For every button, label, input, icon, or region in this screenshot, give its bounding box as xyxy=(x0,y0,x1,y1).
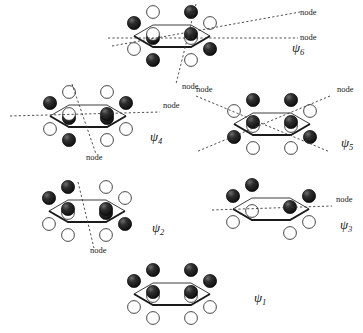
orbital-lobe xyxy=(61,202,74,215)
node-label-psi5-0: node xyxy=(337,84,354,94)
orbital-lobe xyxy=(128,301,141,314)
orbital-lobe xyxy=(246,93,259,106)
orbital-lobe xyxy=(184,27,197,40)
orbital-lobe xyxy=(100,181,113,194)
orbital-lobe xyxy=(203,42,216,55)
orbital-lobe xyxy=(146,53,159,66)
node-label-psi2-0: node xyxy=(90,245,107,255)
orbital-lobe xyxy=(118,217,131,230)
orbital-label-psi1: ψ1 xyxy=(254,290,266,307)
orbital-lobe xyxy=(204,301,217,314)
orbital-label-psi6: ψ6 xyxy=(292,40,305,57)
orbital-psi4 xyxy=(43,86,132,147)
orbital-lobe xyxy=(44,123,57,136)
node-line-psi6-0 xyxy=(112,12,300,46)
orbital-lobe xyxy=(119,96,132,109)
node-line-psi3-0 xyxy=(212,206,332,210)
orbital-lobe xyxy=(42,191,55,204)
orbital-label-psi2: ψ2 xyxy=(152,220,165,237)
orbital-lobe xyxy=(146,285,159,298)
orbital-lobe xyxy=(303,216,316,229)
orbital-lobe xyxy=(283,200,296,213)
orbital-psi5 xyxy=(227,93,316,154)
node-label-psi3-0: node xyxy=(336,194,353,204)
orbital-lobe xyxy=(127,274,140,287)
orbital-lobe xyxy=(203,274,216,287)
node-line-psi4-0 xyxy=(10,112,160,116)
orbital-lobe xyxy=(227,130,240,143)
orbital-lobe xyxy=(246,205,259,218)
node-label-psi4-1: node xyxy=(86,152,103,162)
node-label-psi6-0: node xyxy=(300,7,317,17)
orbital-lobe xyxy=(119,192,132,205)
mo-diagram-canvas: nodenodenodeψ6nodenodeψ4nodenodeψ5nodeψ2… xyxy=(0,0,363,333)
orbital-lobe xyxy=(185,312,198,325)
orbital-lobe xyxy=(62,229,75,242)
orbital-lobe xyxy=(184,263,197,276)
node-label-psi5-1: node xyxy=(196,84,213,94)
node-label-psi4-0: node xyxy=(163,100,180,110)
orbital-label-psi4: ψ4 xyxy=(150,129,163,146)
orbital-psi1 xyxy=(127,263,216,324)
orbital-label-psi3: ψ3 xyxy=(340,217,352,234)
orbital-lobe xyxy=(303,130,316,143)
orbital-lobe xyxy=(284,115,297,128)
orbital-psi6 xyxy=(127,5,216,66)
orbital-lobe xyxy=(226,189,239,202)
benzene-mo-diagram: nodenodenodeψ6nodenodeψ4nodenodeψ5nodeψ2… xyxy=(0,0,363,333)
orbital-lobe xyxy=(228,105,241,118)
orbital-lobe xyxy=(127,16,140,29)
orbital-lobe xyxy=(185,54,198,67)
orbital-lobe xyxy=(146,263,159,276)
orbital-lobe xyxy=(101,86,114,99)
orbital-layer xyxy=(42,5,316,324)
orbital-lobe xyxy=(184,5,197,18)
orbital-lobe xyxy=(63,86,76,99)
orbital-lobe xyxy=(227,216,240,229)
orbital-lobe xyxy=(204,17,217,30)
orbital-lobe xyxy=(43,96,56,109)
orbital-lobe xyxy=(120,123,133,136)
node-label-psi6-1: node xyxy=(300,32,317,42)
orbital-lobe xyxy=(284,227,297,240)
label-layer: nodenodenodeψ6nodenodeψ4nodenodeψ5nodeψ2… xyxy=(86,7,354,307)
orbital-lobe xyxy=(99,202,112,215)
orbital-lobe xyxy=(43,218,56,231)
orbital-lobe xyxy=(61,180,74,193)
orbital-lobe xyxy=(147,6,160,19)
orbital-lobe xyxy=(284,93,297,106)
orbital-lobe xyxy=(247,142,260,155)
orbital-lobe xyxy=(285,142,298,155)
orbital-lobe xyxy=(302,189,315,202)
node-line-psi2-0 xyxy=(78,182,94,248)
orbital-lobe xyxy=(245,178,258,191)
orbital-label-psi5: ψ5 xyxy=(341,135,353,152)
orbital-lobe xyxy=(128,43,141,56)
orbital-lobe xyxy=(100,229,113,242)
orbital-psi2 xyxy=(42,180,131,241)
orbital-lobe xyxy=(62,133,75,146)
orbital-lobe xyxy=(147,312,160,325)
orbital-lobe xyxy=(184,285,197,298)
node-line-layer xyxy=(10,4,332,248)
orbital-lobe xyxy=(100,107,113,120)
orbital-lobe xyxy=(101,134,114,147)
